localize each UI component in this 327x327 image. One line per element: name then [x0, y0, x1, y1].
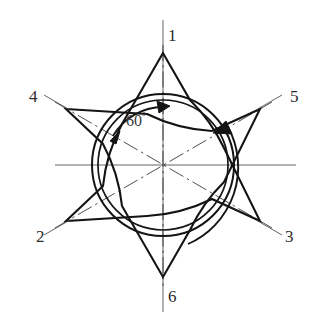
vertex-label-2: 2: [36, 228, 45, 245]
leader-line-5: [256, 95, 282, 110]
rotation-direction-arrow: [188, 121, 238, 244]
technical-drawing-figure: 1 2 3 4 5 6 60°: [0, 0, 327, 327]
leader-line-2: [44, 220, 70, 235]
diagram-canvas: [0, 0, 327, 327]
vertex-label-5: 5: [290, 88, 299, 105]
arc-arrowhead-right: [157, 101, 170, 113]
angle-value: 60: [126, 112, 142, 129]
vertex-label-6: 6: [168, 288, 177, 305]
leader-line-3: [256, 220, 282, 235]
vertex-label-3: 3: [285, 228, 294, 245]
vertex-label-1: 1: [168, 27, 177, 44]
sixty-degree-angle-label: 60°: [126, 112, 146, 129]
centre-lines: [55, 45, 272, 286]
degree-symbol: °: [142, 111, 146, 122]
leader-line-4: [44, 95, 70, 110]
vertex-label-4: 4: [29, 88, 38, 105]
